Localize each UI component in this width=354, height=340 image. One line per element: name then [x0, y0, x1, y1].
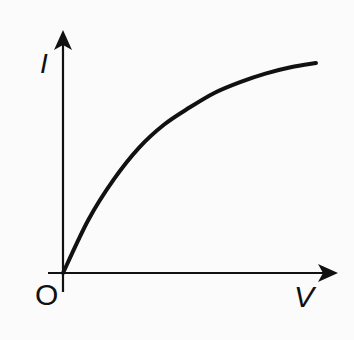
iv-curve — [63, 63, 316, 273]
x-axis-label: V — [294, 282, 314, 312]
y-axis-label: I — [40, 50, 48, 78]
origin-label: O — [35, 280, 58, 310]
